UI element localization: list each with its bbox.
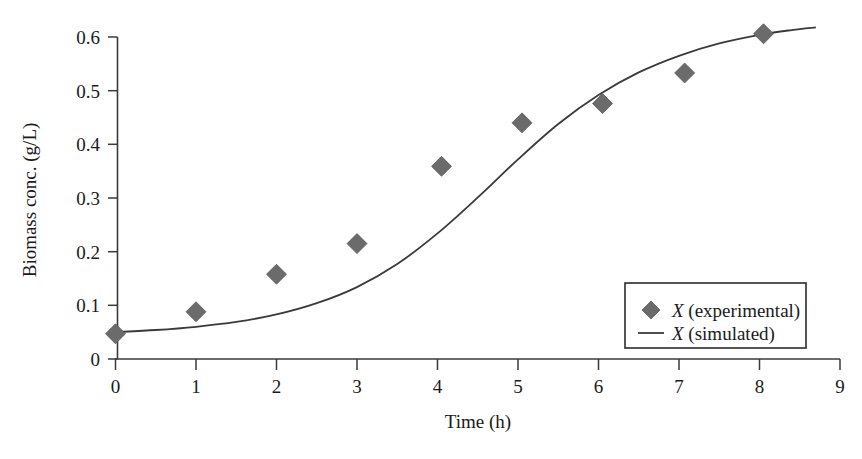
x-axis-title: Time (h)	[445, 411, 511, 433]
y-tick-label-0.5: 0.5	[76, 81, 100, 102]
data-point-marker	[267, 264, 287, 284]
y-tick-label-0: 0	[91, 349, 101, 370]
x-axis-tick-labels: 0 1 2 3 4 5 6 7 8 9	[111, 376, 845, 397]
data-point-marker	[675, 63, 695, 83]
y-axis-ticks	[108, 37, 118, 359]
legend-label-simulated: X (simulated)	[671, 323, 775, 345]
data-point-marker	[347, 234, 367, 254]
data-point-marker	[754, 24, 774, 44]
data-point-marker	[512, 113, 532, 133]
x-tick-label-5: 5	[513, 376, 523, 397]
x-tick-label-2: 2	[272, 376, 282, 397]
legend-label-experimental: X (experimental)	[671, 300, 800, 322]
y-tick-label-0.1: 0.1	[76, 295, 100, 316]
x-tick-label-8: 8	[755, 376, 765, 397]
x-tick-label-4: 4	[433, 376, 443, 397]
x-tick-label-3: 3	[352, 376, 362, 397]
y-tick-label-0.2: 0.2	[76, 242, 100, 263]
legend-desc-experimental: (experimental)	[684, 300, 801, 322]
x-tick-label-6: 6	[594, 376, 604, 397]
chart-canvas: Biomass conc. (g/L) 0 0.1 0.2 0.3 0.4 0.…	[0, 0, 862, 459]
data-point-marker	[432, 156, 452, 176]
chart-legend: X (experimental) X (simulated)	[625, 283, 806, 348]
x-tick-label-9: 9	[835, 376, 845, 397]
y-tick-label-0.4: 0.4	[76, 134, 100, 155]
chart-figure: Biomass conc. (g/L) 0 0.1 0.2 0.3 0.4 0.…	[0, 0, 862, 459]
legend-desc-simulated: (simulated)	[684, 323, 775, 345]
x-tick-label-0: 0	[111, 376, 121, 397]
x-tick-label-7: 7	[674, 376, 684, 397]
y-tick-label-0.3: 0.3	[76, 188, 100, 209]
y-axis-tick-labels: 0 0.1 0.2 0.3 0.4 0.5 0.6	[76, 27, 100, 370]
x-tick-label-1: 1	[191, 376, 201, 397]
y-axis-title: Biomass conc. (g/L)	[19, 123, 41, 278]
x-axis-ticks	[116, 359, 841, 370]
data-point-marker	[106, 324, 126, 344]
data-point-marker	[186, 302, 206, 322]
y-tick-label-0.6: 0.6	[76, 27, 100, 48]
